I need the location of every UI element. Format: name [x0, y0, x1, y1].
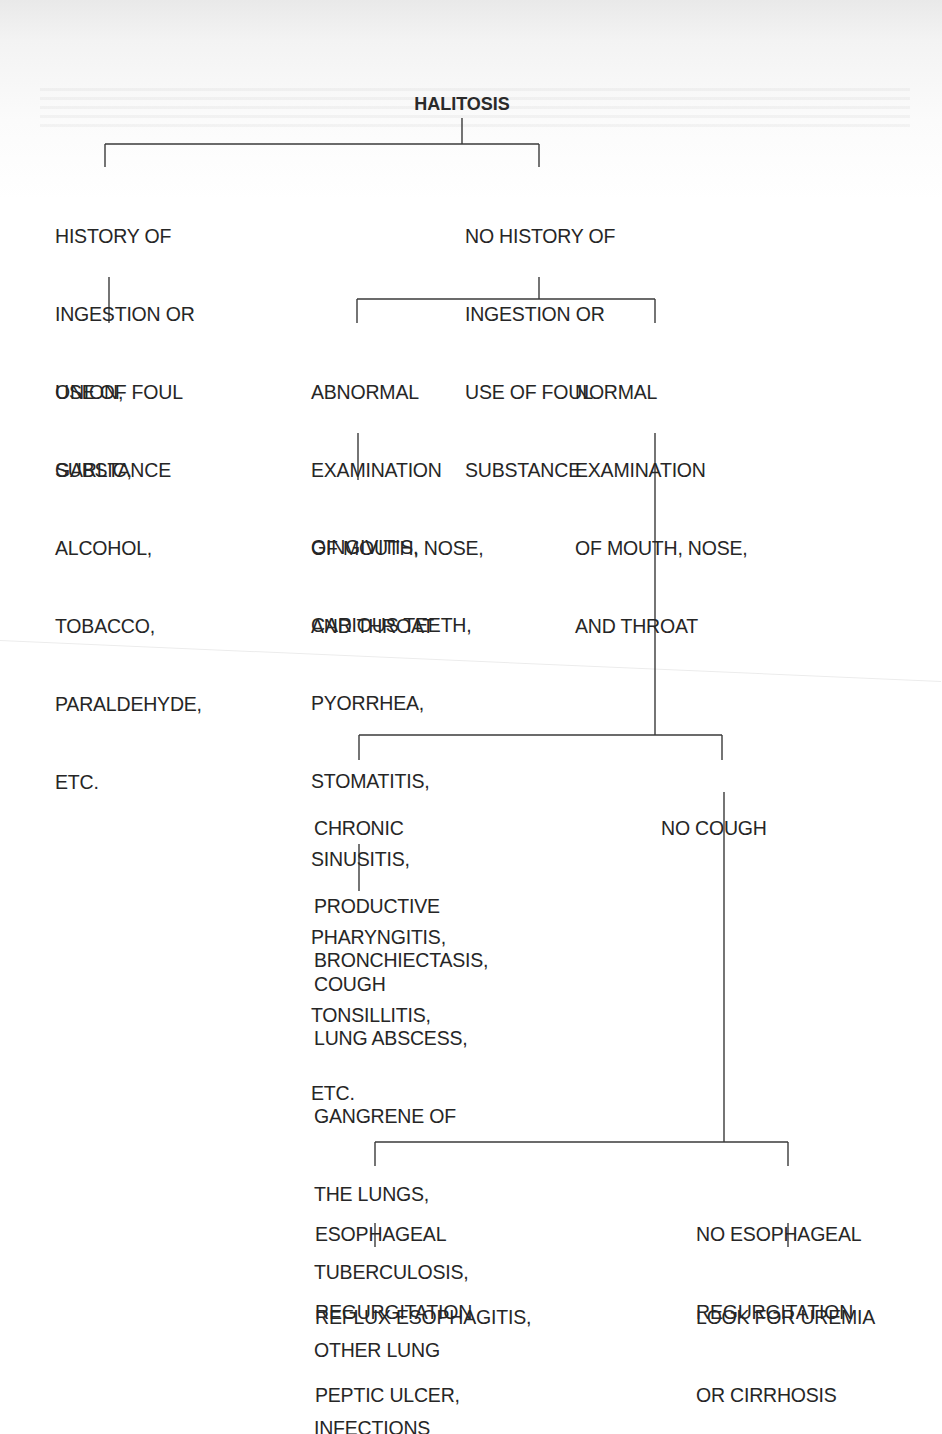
node-foul-substances: ONION, GARLIC, ALCOHOL, TOBACCO, PARALDE…: [55, 327, 202, 821]
node-gi-causes: REFLUX ESOPHAGITIS, PEPTIC ULCER, PARTIA…: [315, 1252, 531, 1434]
diagram-title: HALITOSIS: [0, 92, 924, 116]
node-normal-exam: NORMAL EXAMINATION OF MOUTH, NOSE, AND T…: [575, 327, 748, 665]
node-no-cough: NO COUGH: [661, 763, 767, 867]
node-systemic: LOOK FOR UREMIA OR CIRRHOSIS: [696, 1252, 875, 1434]
